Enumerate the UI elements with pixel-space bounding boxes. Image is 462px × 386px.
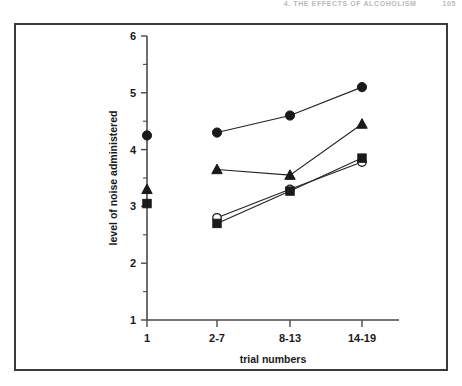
running-head-title: 4. THE EFFECTS OF ALCOHOLISM (284, 0, 417, 7)
running-head-page-number: 105 (443, 0, 456, 7)
running-head: 4. THE EFFECTS OF ALCOHOLISM105 (0, 0, 456, 12)
figure-border (14, 23, 448, 371)
